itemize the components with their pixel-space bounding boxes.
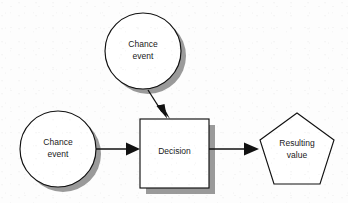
node-decision[interactable]: Decision: [140, 119, 209, 188]
resulting-value-label-line2: value: [287, 150, 308, 160]
chance-event-top-label-line1: Chance: [128, 39, 158, 49]
chance-event-left-label-line1: Chance: [43, 137, 73, 147]
arrow-head-icon: [126, 143, 140, 156]
chance-event-left-label-line2: event: [48, 149, 69, 159]
resulting-value-pentagon[interactable]: [260, 113, 334, 184]
node-chance-event-top[interactable]: Chance event: [105, 13, 181, 89]
diagram-canvas: Chance event Chance event Decision Resul…: [0, 0, 348, 203]
node-chance-event-left[interactable]: Chance event: [20, 111, 96, 187]
decision-label: Decision: [158, 146, 191, 156]
node-resulting-value[interactable]: Resulting value: [260, 113, 334, 184]
resulting-value-label-line1: Resulting: [279, 138, 315, 148]
diagram-svg: Chance event Chance event Decision Resul…: [0, 0, 348, 203]
connector-left-chance-to-decision: [96, 143, 140, 156]
chance-event-top-label-line2: event: [133, 51, 154, 61]
arrow-head-icon: [157, 104, 168, 119]
connector-decision-to-resulting-value: [209, 143, 259, 156]
arrow-head-icon: [244, 143, 259, 156]
connector-top-chance-to-decision: [148, 90, 170, 119]
